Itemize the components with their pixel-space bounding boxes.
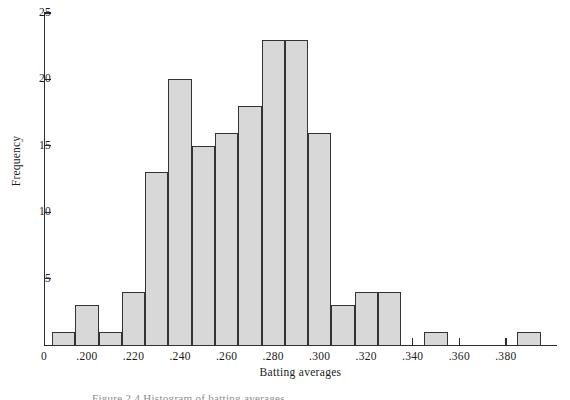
x-tick-label: .340 (388, 350, 438, 363)
y-axis-line (44, 13, 45, 346)
histogram-bar (517, 332, 540, 346)
histogram-figure: 510152025 0.200.220.240.260.280.300.320.… (0, 0, 570, 400)
histogram-bar (168, 79, 191, 346)
y-tick-label: 15 (0, 140, 51, 152)
histogram-bar (355, 292, 378, 346)
x-tick-label: .220 (109, 350, 159, 363)
x-tick-mark (459, 338, 460, 346)
histogram-bar (285, 40, 308, 346)
histogram-bar (262, 40, 285, 346)
histogram-bar (145, 172, 168, 346)
histogram-bar (122, 292, 145, 346)
y-tick-label: 5 (0, 273, 51, 285)
x-tick-label: .240 (155, 350, 205, 363)
histogram-bar (52, 332, 75, 346)
x-tick-label: .380 (481, 350, 531, 363)
y-tick-label-text: 20 (25, 73, 51, 85)
histogram-bar (238, 106, 261, 346)
y-tick-label: 25 (0, 7, 51, 19)
x-tick-label: .320 (341, 350, 391, 363)
x-tick-label: .260 (202, 350, 252, 363)
y-tick-label: 10 (0, 206, 51, 218)
histogram-bar (424, 332, 447, 346)
plot-area: 510152025 0.200.220.240.260.280.300.320.… (0, 0, 570, 400)
histogram-bar (215, 133, 238, 346)
y-tick-label: 20 (0, 73, 51, 85)
figure-caption: Figure 2.4 Histogram of batting averages (92, 392, 285, 400)
x-axis-title: Batting averages (44, 366, 557, 378)
y-tick-label-text: 25 (25, 7, 51, 19)
histogram-bar (331, 305, 354, 346)
x-tick-label: .300 (295, 350, 345, 363)
y-tick-label-text: 10 (25, 206, 51, 218)
histogram-bar (378, 292, 401, 346)
y-tick-label-text: 5 (25, 273, 51, 285)
x-tick-mark (505, 338, 506, 346)
histogram-bar (308, 133, 331, 346)
y-axis-title: Frequency (10, 101, 22, 221)
x-tick-mark (412, 338, 413, 346)
x-tick-label: .280 (248, 350, 298, 363)
histogram-bar (75, 305, 98, 346)
x-tick-label: .360 (434, 350, 484, 363)
y-tick-label-text: 15 (25, 140, 51, 152)
x-tick-label: .200 (62, 350, 112, 363)
histogram-bar (99, 332, 122, 346)
histogram-bar (192, 146, 215, 346)
